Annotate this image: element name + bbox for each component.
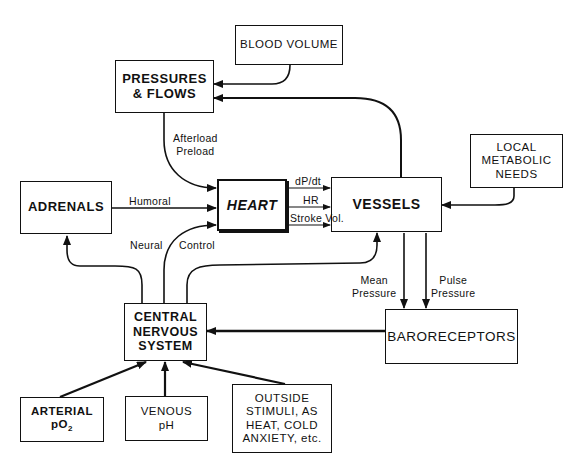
- baroreceptors-label: BARORECEPTORS: [387, 329, 516, 345]
- arterial-label: ARTERIAL: [31, 405, 93, 418]
- pressures-flows-line1: PRESSURES: [122, 72, 207, 87]
- node-outside-stimuli: OUTSIDE STIMULI, AS HEAT, COLD ANXIETY, …: [232, 384, 332, 453]
- node-local-metabolic-needs: LOCAL METABOLIC NEEDS: [470, 134, 563, 188]
- pressures-flows-line2: & FLOWS: [133, 87, 196, 102]
- label-hr: HR: [303, 194, 319, 207]
- local-metabolic-line3: NEEDS: [495, 168, 537, 181]
- cns-line2: NERVOUS: [133, 325, 198, 339]
- outside-line4: ANXIETY, etc.: [242, 432, 321, 445]
- node-adrenals: ADRENALS: [20, 181, 112, 234]
- label-humoral: Humoral: [129, 195, 171, 208]
- node-arterial-po2: ARTERIAL pO2: [20, 397, 104, 442]
- edge-arterial-cns: [60, 362, 146, 397]
- node-blood-volume: BLOOD VOLUME: [235, 25, 343, 65]
- local-metabolic-line1: LOCAL: [496, 141, 536, 154]
- blood-volume-label: BLOOD VOLUME: [240, 38, 338, 51]
- label-mean-pressure: Mean Pressure: [352, 274, 396, 300]
- label-pulse-pressure: Pulse Pressure: [431, 274, 475, 300]
- label-neural: Neural: [130, 239, 163, 252]
- vessels-label: VESSELS: [352, 196, 420, 212]
- heart-label: HEART: [227, 197, 277, 213]
- label-stroke-vol: Stroke Vol.: [290, 212, 344, 225]
- outside-line1: OUTSIDE: [255, 392, 310, 405]
- outside-line2: STIMULI, AS: [246, 405, 318, 418]
- outside-line3: HEAT, COLD: [246, 419, 318, 432]
- venous-label: VENOUS: [141, 405, 193, 418]
- edge-cns-vessels: [187, 233, 377, 303]
- label-afterload-preload: Afterload Preload: [173, 132, 218, 158]
- ph-label: pH: [159, 419, 175, 432]
- node-heart: HEART: [217, 179, 287, 231]
- node-venous-ph: VENOUS pH: [125, 396, 208, 441]
- local-metabolic-line2: METABOLIC: [481, 154, 551, 167]
- edge-outside-cns: [183, 362, 285, 384]
- po2-label: pO2: [51, 418, 73, 433]
- edge-local-vessels: [442, 188, 514, 205]
- label-control: Control: [179, 239, 215, 252]
- node-central-nervous-system: CENTRAL NERVOUS SYSTEM: [124, 303, 207, 361]
- edge-bloodvolume-pressures: [214, 65, 290, 84]
- cns-line1: CENTRAL: [134, 310, 197, 324]
- cns-line3: SYSTEM: [138, 339, 192, 353]
- edge-vessels-pressures: [214, 98, 401, 177]
- node-pressures-flows: PRESSURES & FLOWS: [115, 60, 214, 113]
- label-dpdt: dP/dt: [295, 175, 321, 188]
- node-vessels: VESSELS: [331, 177, 442, 232]
- node-baroreceptors: BARORECEPTORS: [385, 309, 518, 364]
- adrenals-label: ADRENALS: [28, 200, 104, 215]
- edge-cns-heart: [164, 225, 216, 303]
